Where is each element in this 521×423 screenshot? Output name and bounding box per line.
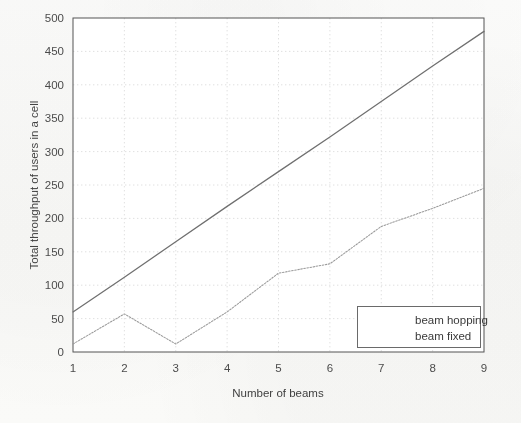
line-chart-figure: 050100150200250300350400450500 123456789… (0, 0, 521, 423)
y-axis-title: Total throughput of users in a cell (28, 101, 40, 270)
y-tick-label: 0 (58, 346, 64, 358)
y-tick-label: 150 (45, 246, 64, 258)
chart-page: 050100150200250300350400450500 123456789… (0, 0, 521, 423)
y-tick-label: 50 (51, 313, 64, 325)
legend-label-1: beam fixed (415, 330, 471, 342)
legend-label-0: beam hopping (415, 314, 488, 326)
x-tick-label: 4 (224, 362, 231, 374)
y-tick-label: 250 (45, 179, 64, 191)
x-tick-label: 5 (275, 362, 281, 374)
x-axis-tick-labels: 123456789 (70, 362, 487, 374)
x-tick-label: 6 (327, 362, 333, 374)
y-tick-label: 500 (45, 12, 64, 24)
y-tick-label: 350 (45, 112, 64, 124)
x-tick-label: 1 (70, 362, 76, 374)
y-tick-label: 100 (45, 279, 64, 291)
y-tick-label: 300 (45, 146, 64, 158)
y-tick-label: 400 (45, 79, 64, 91)
x-tick-label: 2 (121, 362, 127, 374)
x-tick-label: 9 (481, 362, 487, 374)
x-axis-title: Number of beams (232, 387, 324, 399)
chart-legend[interactable]: beam hoppingbeam fixed (358, 307, 488, 348)
x-tick-label: 7 (378, 362, 384, 374)
y-tick-label: 200 (45, 212, 64, 224)
y-tick-label: 450 (45, 45, 64, 57)
x-tick-label: 3 (173, 362, 179, 374)
y-axis-tick-labels: 050100150200250300350400450500 (45, 12, 64, 358)
x-tick-label: 8 (429, 362, 435, 374)
chart-svg: 050100150200250300350400450500 123456789… (0, 0, 521, 423)
